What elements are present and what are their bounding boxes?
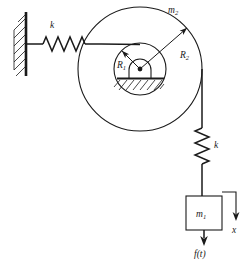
radius-inner-label: R1: [116, 60, 126, 71]
mechanical-system-diagram: k m2 R1 R2: [0, 0, 252, 260]
fixed-wall-support: [14, 12, 26, 76]
force-label: f(t): [194, 249, 206, 260]
vertical-spring: [195, 128, 209, 196]
ground-hatching: [114, 79, 164, 91]
radius-outer-label: R2: [179, 50, 190, 61]
pivot-bearing: [129, 59, 151, 78]
pulley-mass-label: m2: [168, 5, 179, 16]
displacement-label: x: [231, 225, 237, 235]
spring-vertical-label: k: [214, 140, 219, 150]
horizontal-spring: [26, 37, 101, 51]
spring-horizontal-label: k: [50, 20, 55, 30]
figure-canvas: k m2 R1 R2: [0, 0, 252, 260]
displacement-arrow: [222, 192, 239, 221]
radius-outer-arrow: [140, 28, 187, 69]
force-arrow: [200, 230, 208, 246]
